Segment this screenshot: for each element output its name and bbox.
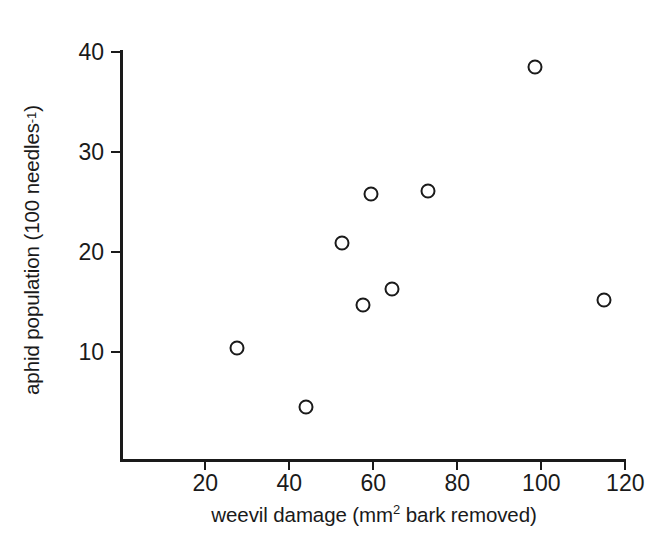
x-tick-label-60: 60 (333, 470, 413, 497)
x-tick-40 (288, 461, 290, 470)
y-tick-label-40: 40 (44, 39, 104, 66)
x-tick-label-20: 20 (165, 470, 245, 497)
y-axis-line (120, 50, 123, 462)
x-tick-label-120: 120 (585, 470, 665, 497)
data-point (355, 298, 370, 313)
data-point (385, 282, 400, 297)
x-tick-60 (372, 461, 374, 470)
y-tick-label-10: 10 (44, 339, 104, 366)
xlabel-main: weevil damage (mm (211, 503, 393, 526)
x-tick-100 (540, 461, 542, 470)
y-tick-30 (111, 151, 120, 153)
y-tick-40 (111, 51, 120, 53)
y-tick-10 (111, 351, 120, 353)
x-tick-label-80: 80 (417, 470, 497, 497)
figure-scatter-plot: 10203040 20406080100120 aphid population… (0, 0, 666, 560)
xlabel-tail: bark removed) (400, 503, 536, 526)
x-axis-label: weevil damage (mm2 bark removed) (122, 503, 626, 527)
data-point (597, 293, 612, 308)
data-point (420, 184, 435, 199)
data-point (528, 60, 543, 75)
y-tick-label-30: 30 (44, 139, 104, 166)
x-tick-label-100: 100 (501, 470, 581, 497)
data-point (334, 236, 349, 251)
x-tick-20 (204, 461, 206, 470)
ylabel-main: aphid population (100 needles (20, 123, 44, 395)
y-tick-20 (111, 251, 120, 253)
x-tick-120 (624, 461, 626, 470)
data-point (364, 187, 379, 202)
ylabel-tail: ) (20, 105, 44, 112)
plot-area: 10203040 20406080100120 (0, 0, 666, 560)
x-tick-label-40: 40 (249, 470, 329, 497)
y-tick-label-20: 20 (44, 239, 104, 266)
data-point (229, 341, 244, 356)
data-point (299, 400, 314, 415)
x-tick-80 (456, 461, 458, 470)
y-axis-label: aphid population (100 needles-1) (12, 30, 52, 470)
